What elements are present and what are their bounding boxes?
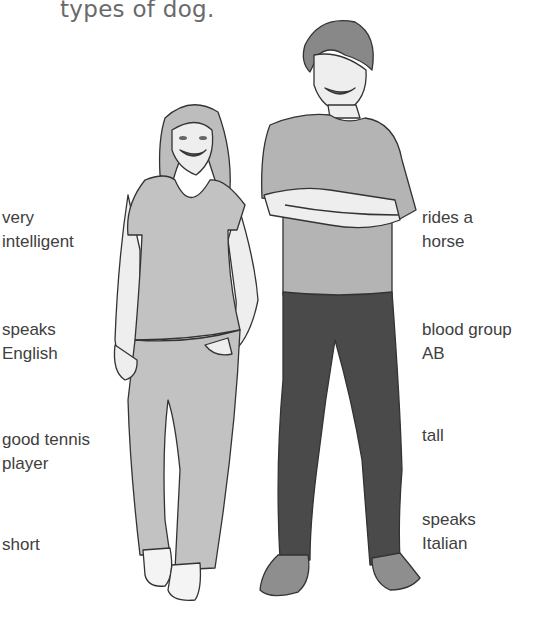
label-good-tennis-player: good tennis player (2, 428, 90, 476)
label-speaks-italian: speaks Italian (422, 508, 476, 556)
boy-figure (260, 21, 420, 596)
label-rides-a-horse: rides a horse (422, 206, 473, 254)
label-short: short (2, 533, 40, 557)
label-very-intelligent: very intelligent (2, 206, 74, 254)
label-tall: tall (422, 424, 444, 448)
label-blood-group-ab: blood group AB (422, 318, 512, 366)
girl-figure (114, 105, 258, 601)
label-speaks-english: speaks English (2, 318, 58, 366)
